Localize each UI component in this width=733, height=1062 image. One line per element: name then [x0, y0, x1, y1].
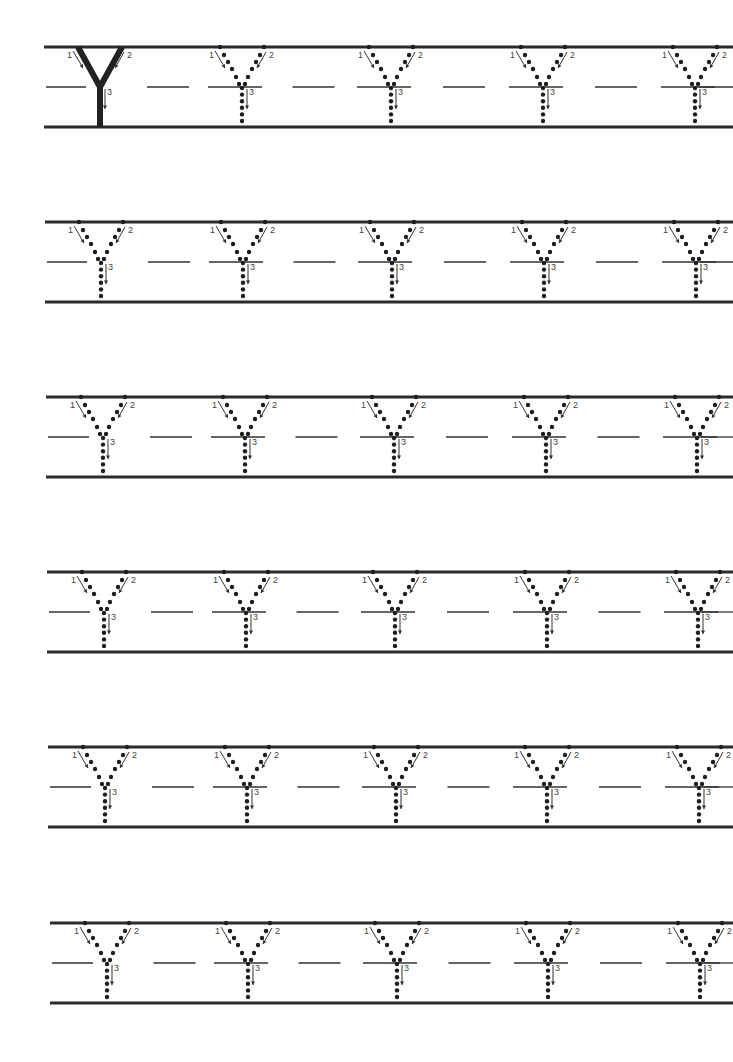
- traceable-letter-y: 123: [513, 395, 578, 473]
- stroke-2-label: 2: [575, 926, 580, 936]
- stroke-3-label: 3: [705, 612, 710, 622]
- stroke-3-label: 3: [554, 787, 559, 797]
- traceable-letter-y: 123: [514, 570, 579, 648]
- stroke-3-label: 3: [707, 963, 712, 973]
- traceable-letter-y: 123: [361, 395, 426, 473]
- traceable-letter-y: 123: [213, 570, 278, 648]
- stroke-3-label: 3: [402, 612, 407, 622]
- stroke-1-label: 1: [514, 750, 519, 760]
- traceable-letter-y: 123: [666, 745, 731, 823]
- traceable-letter-y: 123: [71, 570, 136, 648]
- stroke-2-label: 2: [127, 50, 132, 60]
- traceable-letter-y: 123: [664, 395, 729, 473]
- stroke-3-label: 3: [550, 87, 555, 97]
- stroke-1-label: 1: [209, 50, 214, 60]
- stroke-3-label: 3: [255, 963, 260, 973]
- stroke-3-label: 3: [404, 963, 409, 973]
- stroke-1-label: 1: [358, 50, 363, 60]
- stroke-1-label: 1: [210, 225, 215, 235]
- stroke-1-label: 1: [214, 750, 219, 760]
- tracing-worksheet: 1231231231231231231231231231231231231231…: [0, 0, 733, 1062]
- stroke-3-label: 3: [112, 787, 117, 797]
- traceable-letter-y: 123: [72, 745, 137, 823]
- stroke-3-label: 3: [108, 262, 113, 272]
- stroke-2-label: 2: [571, 225, 576, 235]
- practice-row: 123123123123123: [47, 570, 733, 652]
- stroke-2-label: 2: [128, 225, 133, 235]
- stroke-3-label: 3: [107, 87, 112, 97]
- stroke-3-label: 3: [704, 437, 709, 447]
- traceable-letter-y: 123: [510, 45, 575, 123]
- stroke-3-label: 3: [250, 262, 255, 272]
- stroke-1-label: 1: [667, 926, 672, 936]
- stroke-2-label: 2: [275, 926, 280, 936]
- stroke-2-label: 2: [724, 400, 729, 410]
- stroke-3-label: 3: [555, 963, 560, 973]
- stroke-2-label: 2: [269, 50, 274, 60]
- stroke-2-label: 2: [423, 750, 428, 760]
- stroke-1-label: 1: [68, 225, 73, 235]
- stroke-2-label: 2: [131, 575, 136, 585]
- traceable-letter-y: 123: [362, 570, 427, 648]
- stroke-3-label: 3: [110, 437, 115, 447]
- stroke-1-label: 1: [67, 50, 72, 60]
- stroke-1-label: 1: [664, 400, 669, 410]
- stroke-3-label: 3: [553, 437, 558, 447]
- stroke-1-label: 1: [215, 926, 220, 936]
- traceable-letter-y: 123: [214, 745, 279, 823]
- stroke-2-label: 2: [570, 50, 575, 60]
- traceable-letter-y: 123: [68, 220, 133, 298]
- stroke-1-label: 1: [359, 225, 364, 235]
- traceable-letter-y: 123: [514, 745, 579, 823]
- stroke-1-label: 1: [510, 50, 515, 60]
- stroke-2-label: 2: [574, 750, 579, 760]
- stroke-3-label: 3: [111, 612, 116, 622]
- stroke-2-label: 2: [274, 750, 279, 760]
- stroke-2-label: 2: [424, 926, 429, 936]
- practice-row: 123123123123123: [50, 921, 733, 1003]
- stroke-2-label: 2: [421, 400, 426, 410]
- traceable-letter-y: 123: [70, 395, 135, 473]
- traceable-letter-y: 123: [215, 921, 280, 999]
- stroke-1-label: 1: [71, 575, 76, 585]
- traceable-letter-y: 123: [209, 45, 274, 123]
- stroke-1-label: 1: [212, 400, 217, 410]
- stroke-3-label: 3: [401, 437, 406, 447]
- stroke-3-label: 3: [253, 612, 258, 622]
- stroke-1-label: 1: [666, 750, 671, 760]
- stroke-2-label: 2: [722, 50, 727, 60]
- stroke-1-label: 1: [511, 225, 516, 235]
- stroke-1-label: 1: [361, 400, 366, 410]
- stroke-2-label: 2: [723, 225, 728, 235]
- stroke-2-label: 2: [422, 575, 427, 585]
- traceable-letter-y: 123: [210, 220, 275, 298]
- stroke-3-label: 3: [551, 262, 556, 272]
- traceable-letter-y: 123: [663, 220, 728, 298]
- stroke-3-label: 3: [702, 87, 707, 97]
- stroke-1-label: 1: [514, 575, 519, 585]
- practice-row: 123123123123123: [48, 745, 733, 827]
- traceable-letter-y: 123: [74, 921, 139, 999]
- stroke-1-label: 1: [363, 750, 368, 760]
- stroke-2-label: 2: [726, 750, 731, 760]
- traceable-letter-y: 123: [665, 570, 730, 648]
- stroke-2-label: 2: [573, 400, 578, 410]
- stroke-3-label: 3: [254, 787, 259, 797]
- traceable-letter-y: 123: [511, 220, 576, 298]
- stroke-1-label: 1: [362, 575, 367, 585]
- stroke-2-label: 2: [418, 50, 423, 60]
- traceable-letter-y: 123: [359, 220, 424, 298]
- stroke-1-label: 1: [72, 750, 77, 760]
- stroke-1-label: 1: [663, 225, 668, 235]
- stroke-1-label: 1: [213, 575, 218, 585]
- practice-row: 123123123123123: [46, 395, 733, 477]
- stroke-3-label: 3: [249, 87, 254, 97]
- stroke-2-label: 2: [419, 225, 424, 235]
- traceable-letter-y: 123: [358, 45, 423, 123]
- stroke-2-label: 2: [134, 926, 139, 936]
- stroke-1-label: 1: [364, 926, 369, 936]
- stroke-3-label: 3: [114, 963, 119, 973]
- stroke-2-label: 2: [132, 750, 137, 760]
- practice-row: 123123123123123: [44, 45, 733, 127]
- stroke-1-label: 1: [662, 50, 667, 60]
